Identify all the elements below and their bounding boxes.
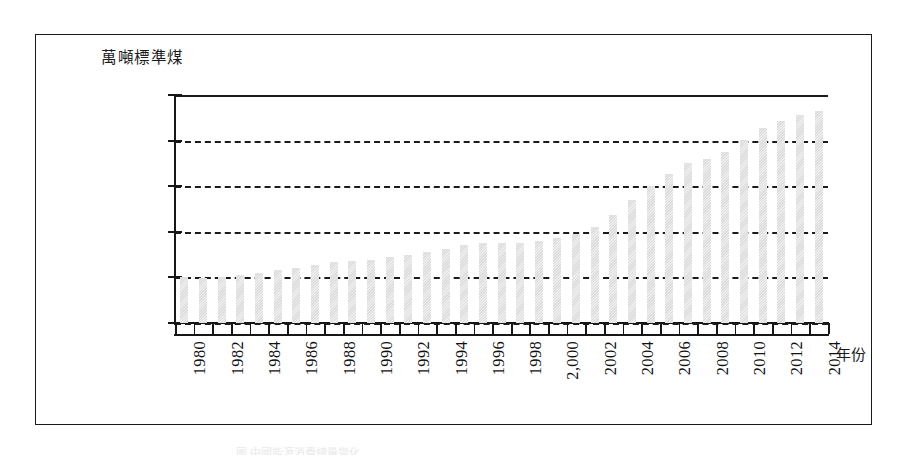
x-axis-tick: [772, 323, 774, 334]
bar: [553, 238, 561, 323]
x-axis-tick: [455, 323, 457, 334]
x-axis-tick: [212, 323, 214, 334]
bar: [759, 128, 767, 323]
bar: [236, 275, 244, 323]
x-axis-tick-label: 2006: [675, 341, 695, 375]
x-axis-tick: [343, 323, 345, 334]
x-axis-tick: [697, 323, 699, 334]
bar: [591, 227, 599, 323]
x-axis-tick-label: 1994: [452, 341, 472, 375]
bar: [777, 121, 785, 323]
x-axis-tick: [828, 323, 830, 334]
x-axis-tick-label: 2012: [787, 341, 807, 375]
gridline: [175, 232, 828, 234]
x-axis-tick-label: 2,000: [563, 341, 583, 380]
caption-remnant: 圖 中國能源消費總量變化: [236, 444, 666, 455]
bar: [423, 252, 431, 323]
bar: [404, 255, 412, 323]
x-axis-tick: [418, 323, 420, 334]
x-axis-tick-label: 1990: [377, 341, 397, 375]
category-axis-outer-line: [174, 334, 829, 336]
x-axis-tick-label: 1986: [302, 341, 322, 375]
bar: [740, 140, 748, 323]
x-axis-tick: [399, 323, 401, 334]
bar: [386, 257, 394, 323]
x-axis-tick: [194, 323, 196, 334]
x-axis-tick: [548, 323, 550, 334]
bar: [292, 268, 300, 323]
bar: [180, 277, 188, 323]
bar: [460, 245, 468, 323]
x-axis-tick: [679, 323, 681, 334]
x-axis-tick-label: 2010: [750, 341, 770, 375]
x-axis-title: 年份: [836, 343, 866, 364]
x-axis-tick-label: 2004: [638, 341, 658, 375]
x-axis-tick: [791, 323, 793, 334]
bar: [348, 261, 356, 323]
x-axis-tick-label: 1992: [414, 341, 434, 375]
x-axis-tick: [436, 323, 438, 334]
x-axis-tick: [362, 323, 364, 334]
gridline: [175, 323, 828, 325]
x-axis-tick: [324, 323, 326, 334]
bar: [274, 270, 282, 323]
x-axis-tick-label: 1980: [190, 341, 210, 375]
bar: [442, 249, 450, 323]
x-axis-tick-label: 2008: [713, 341, 733, 375]
gridline: [175, 95, 828, 97]
gridline: [175, 186, 828, 188]
y-axis-unit-label: 萬噸標準煤: [101, 45, 184, 67]
x-axis-tick: [716, 323, 718, 334]
bar: [721, 152, 729, 324]
x-axis-tick-label: 1988: [340, 341, 360, 375]
bar: [255, 273, 263, 323]
x-axis-tick-label: 1984: [265, 341, 285, 375]
bar: [330, 262, 338, 323]
x-axis-tick-label: 1982: [228, 341, 248, 375]
bar: [479, 243, 487, 323]
plot-area: [175, 95, 828, 323]
x-axis-tick: [511, 323, 513, 334]
x-axis-tick: [753, 323, 755, 334]
bar: [516, 243, 524, 323]
bar: [572, 234, 580, 323]
bar: [647, 186, 655, 323]
x-axis-tick: [306, 323, 308, 334]
x-axis-tick: [623, 323, 625, 334]
x-axis-tick: [809, 323, 811, 334]
x-axis-tick: [231, 323, 233, 334]
y-axis-tick: [168, 231, 182, 233]
x-axis-tick: [250, 323, 252, 334]
bar: [498, 243, 506, 323]
x-axis-tick: [268, 323, 270, 334]
bar: [665, 174, 673, 323]
x-axis-tick: [660, 323, 662, 334]
x-axis-tick-label: 1996: [489, 341, 509, 375]
x-axis-tick: [604, 323, 606, 334]
x-axis-tick-label: 1998: [526, 341, 546, 375]
x-axis-tick: [175, 323, 177, 334]
bar: [311, 265, 319, 323]
x-axis-tick: [287, 323, 289, 334]
bar: [815, 111, 823, 323]
bar: [628, 200, 636, 323]
y-axis-tick: [168, 185, 182, 187]
bar: [199, 278, 207, 323]
x-axis-tick: [529, 323, 531, 334]
bar: [609, 215, 617, 323]
x-axis-tick: [474, 323, 476, 334]
bar: [684, 163, 692, 323]
x-axis-tick: [567, 323, 569, 334]
x-axis-tick: [641, 323, 643, 334]
y-axis-tick: [168, 140, 182, 142]
x-axis-tick-label: 2002: [601, 341, 621, 375]
x-axis-tick: [735, 323, 737, 334]
gridline: [175, 141, 828, 143]
bar: [535, 241, 543, 323]
bar: [796, 115, 804, 323]
x-axis-tick: [585, 323, 587, 334]
bar: [703, 159, 711, 323]
y-axis-tick: [168, 94, 182, 96]
x-axis-tick: [492, 323, 494, 334]
bar: [218, 277, 226, 324]
